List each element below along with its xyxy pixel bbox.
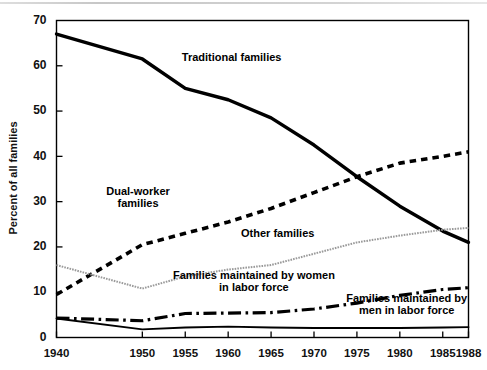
x-tick-label: 1985 [430, 347, 456, 359]
annotation-line: Dual-worker [106, 185, 170, 197]
series-annotation: Families maintained by womenin labor for… [173, 269, 335, 293]
series-annotation: Dual-workerfamilies [106, 185, 170, 209]
series-annotation: Other families [241, 227, 314, 239]
series-annotation: Traditional families [182, 51, 282, 63]
y-tick-label: 50 [33, 103, 47, 117]
x-tick-label: 1988 [456, 347, 482, 359]
x-tick-label: 1950 [130, 347, 156, 359]
x-tick-label: 1940 [44, 347, 70, 359]
y-tick-label: 10 [33, 284, 47, 298]
y-axis-ticks [57, 66, 63, 292]
x-axis-ticks [57, 332, 469, 338]
x-axis-tick-labels: 1940195019551960196519701975198019851988 [44, 347, 482, 359]
x-tick-label: 1970 [301, 347, 327, 359]
y-axis-title: Percent of all families [7, 121, 19, 234]
x-tick-label: 1960 [215, 347, 241, 359]
series-annotations: Traditional familiesDual-workerfamiliesO… [106, 51, 468, 316]
annotation-line: men in labor force [359, 304, 454, 316]
x-tick-label: 1955 [172, 347, 198, 359]
line-chart-svg: 010203040506070 194019501955196019651970… [0, 0, 487, 370]
annotation-line: Families maintained by [346, 292, 468, 304]
y-tick-label: 30 [33, 194, 47, 208]
y-tick-label: 0 [40, 330, 47, 344]
x-tick-label: 1965 [258, 347, 284, 359]
annotation-line: in labor force [219, 281, 289, 293]
y-tick-label: 60 [33, 58, 47, 72]
annotation-line: Families maintained by women [173, 269, 335, 281]
y-tick-label: 70 [33, 13, 47, 27]
series-annotation: Families maintained bymen in labor force [346, 292, 468, 316]
x-tick-label: 1975 [344, 347, 370, 359]
x-tick-label: 1980 [387, 347, 413, 359]
y-axis-tick-labels: 010203040506070 [33, 13, 47, 344]
y-tick-label: 40 [33, 149, 47, 163]
y-tick-label: 20 [33, 239, 47, 253]
chart-container: 010203040506070 194019501955196019651970… [0, 0, 487, 370]
annotation-line: families [118, 197, 159, 209]
